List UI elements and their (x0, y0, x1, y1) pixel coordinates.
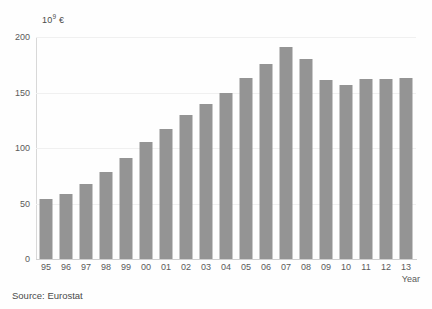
x-axis-tick-labels: 95969798990001020304050607080910111213 (36, 262, 416, 278)
bar[interactable] (60, 194, 73, 259)
bar-slot (356, 37, 376, 259)
x-axis-tick-label: 95 (41, 262, 51, 272)
bars-group (36, 37, 416, 259)
x-axis-tick-label: 09 (321, 262, 331, 272)
bar[interactable] (180, 115, 193, 259)
bar-slot (116, 37, 136, 259)
x-axis-tick-label: 13 (401, 262, 411, 272)
x-axis-tick-label: 06 (261, 262, 271, 272)
bar-slot (396, 37, 416, 259)
y-axis-tick-label: 200 (15, 32, 30, 42)
bar[interactable] (300, 59, 313, 259)
source-note: Source: Eurostat (12, 290, 83, 301)
y-axis-tick-label: 0 (25, 254, 30, 264)
x-axis-tick-label: 07 (281, 262, 291, 272)
x-axis-tick-label: 99 (121, 262, 131, 272)
bar[interactable] (200, 104, 213, 259)
x-axis-tick-label: 03 (201, 262, 211, 272)
bar[interactable] (280, 47, 293, 259)
bar[interactable] (260, 64, 273, 259)
x-axis-tick-label: 04 (221, 262, 231, 272)
y-axis-unit-label: 109 € (42, 15, 64, 25)
x-axis-tick-label: 96 (61, 262, 71, 272)
bar-slot (156, 37, 176, 259)
bar-slot (336, 37, 356, 259)
bar[interactable] (220, 93, 233, 260)
bar-slot (276, 37, 296, 259)
bar-slot (76, 37, 96, 259)
bar[interactable] (40, 199, 53, 259)
bar[interactable] (140, 142, 153, 259)
bar-slot (236, 37, 256, 259)
bar[interactable] (80, 184, 93, 259)
bar-slot (56, 37, 76, 259)
chart-figure: 109 € 050100150200 959697989900010203040… (0, 0, 432, 309)
y-axis-unit-exponent: 9 (52, 13, 56, 20)
x-axis-tick-label: 05 (241, 262, 251, 272)
x-axis-tick-label: 10 (341, 262, 351, 272)
x-axis-title: Year (402, 274, 420, 284)
y-axis-unit-currency: € (59, 15, 64, 25)
bar-slot (376, 37, 396, 259)
bar-slot (136, 37, 156, 259)
bar-slot (316, 37, 336, 259)
y-axis-tick-label: 50 (20, 199, 30, 209)
gridline (36, 259, 416, 260)
bar[interactable] (360, 79, 373, 259)
bar[interactable] (320, 80, 333, 259)
x-axis-tick-label: 08 (301, 262, 311, 272)
bar[interactable] (340, 85, 353, 259)
x-axis-tick-label: 02 (181, 262, 191, 272)
bar[interactable] (380, 79, 393, 259)
x-axis-tick-label: 00 (141, 262, 151, 272)
x-axis-tick-label: 01 (161, 262, 171, 272)
bar[interactable] (160, 129, 173, 259)
bar-slot (196, 37, 216, 259)
y-axis-tick-label: 150 (15, 88, 30, 98)
bar-slot (96, 37, 116, 259)
y-axis-tick-label: 100 (15, 143, 30, 153)
x-axis-tick-label: 12 (381, 262, 391, 272)
x-axis-tick-label: 98 (101, 262, 111, 272)
plot-area: 050100150200 (36, 37, 416, 259)
bar-slot (216, 37, 236, 259)
bar[interactable] (240, 78, 253, 259)
bar-slot (296, 37, 316, 259)
x-axis-tick-label: 11 (361, 262, 370, 272)
bar-slot (256, 37, 276, 259)
bar-slot (176, 37, 196, 259)
y-axis-unit-base: 10 (42, 15, 52, 25)
bar[interactable] (120, 158, 133, 259)
bar-slot (36, 37, 56, 259)
x-axis-tick-label: 97 (81, 262, 91, 272)
bar[interactable] (100, 172, 113, 259)
bar[interactable] (400, 78, 413, 259)
